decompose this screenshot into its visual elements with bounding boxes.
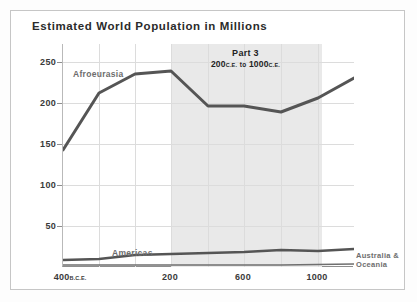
line-afroeurasia [63,71,354,150]
y-tick-mark-50 [57,226,62,227]
y-tick-150: 150 [26,139,56,149]
part3-range-start-era: C.E. [226,62,238,68]
x-tick-400-bce: 400B.C.E. [54,272,87,282]
y-axis-labels: 250 200 150 100 50 [22,44,56,267]
part3-range-conj: to [240,61,247,68]
y-tick-50: 50 [26,221,56,231]
part3-range: 200C.E. to 1000C.E. [170,59,321,69]
y-tick-250: 250 [26,57,56,67]
x-tick-1000: 1000 [306,272,327,282]
series-label-americas: Americas [112,249,153,259]
line-australia-oceania [63,264,354,265]
part3-label: Part 3 [170,48,321,58]
x-tick-400-value: 400 [54,272,70,282]
x-tick-400-era: B.C.E. [70,275,87,281]
series-label-australia-oceania: Australia & Oceania [356,252,399,269]
part3-range-start: 200 [211,59,226,69]
y-tick-mark-250 [57,62,62,63]
part3-range-end: 1000 [249,59,269,69]
y-tick-100: 100 [26,180,56,190]
part3-annotation: Part 3 200C.E. to 1000C.E. [170,48,321,69]
part3-range-end-era: C.E. [269,62,281,68]
x-tick-200: 200 [162,272,178,282]
line-americas [63,249,354,260]
chart-page: Estimated World Population in Millions 2… [0,0,417,302]
y-tick-200: 200 [26,98,56,108]
y-tick-mark-150 [57,144,62,145]
y-tick-mark-100 [57,185,62,186]
page-title: Estimated World Population in Millions [32,20,267,32]
y-tick-mark-200 [57,103,62,104]
x-tick-600: 600 [235,272,251,282]
series-label-afroeurasia: Afroeurasia [73,70,124,80]
